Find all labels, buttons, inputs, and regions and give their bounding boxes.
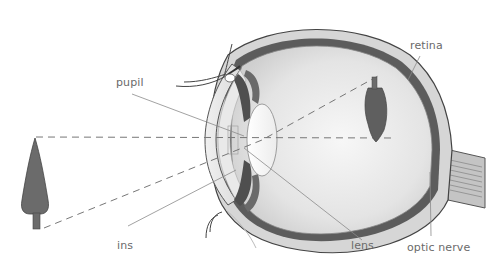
label-retina: retina — [410, 40, 443, 52]
label-iris: ins — [117, 240, 133, 252]
optic-nerve — [448, 150, 485, 208]
label-pupil: pupil — [116, 77, 144, 89]
label-lens: lens — [351, 240, 374, 252]
real-tree — [21, 138, 48, 229]
lens — [247, 104, 277, 176]
label-optic-nerve: optic nerve — [407, 242, 470, 254]
